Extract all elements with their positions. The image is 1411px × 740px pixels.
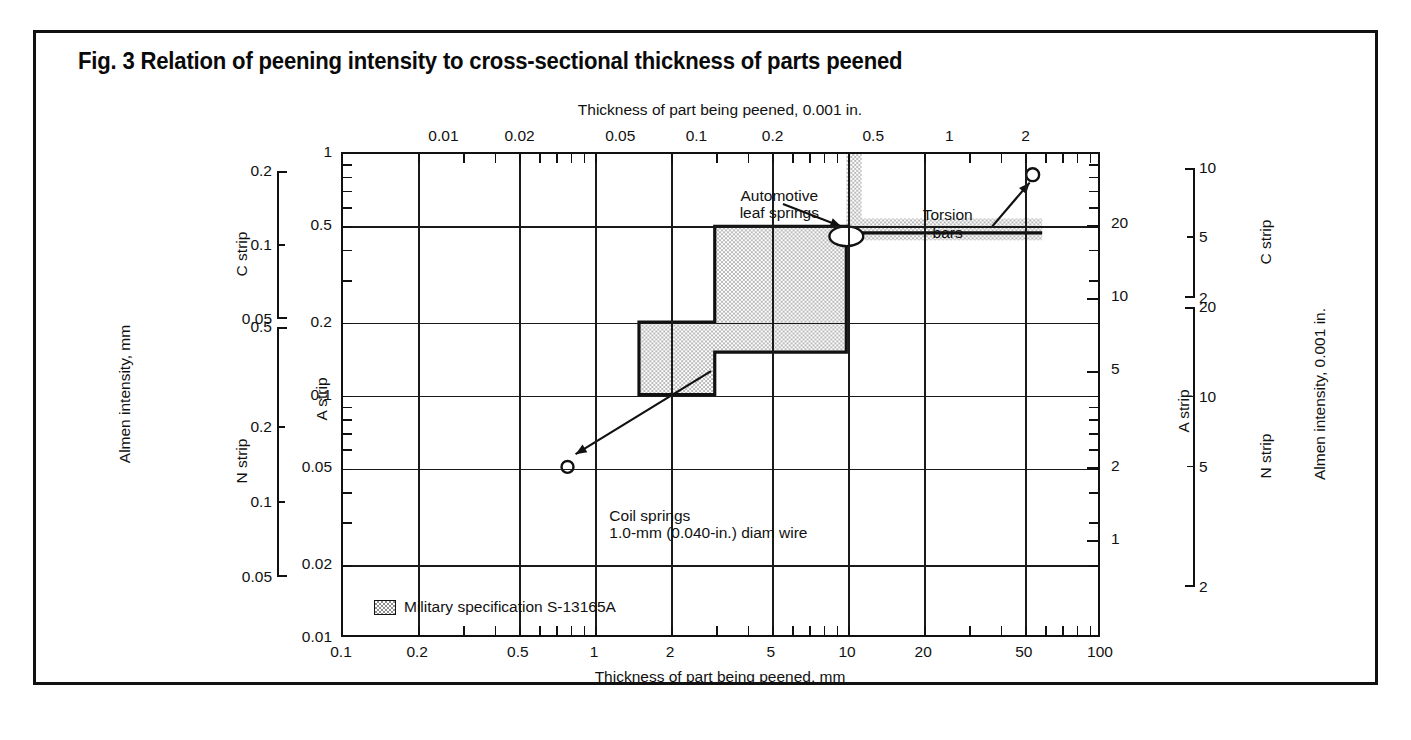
y-minor-tick bbox=[1089, 323, 1098, 325]
y-minor-tick bbox=[1089, 492, 1098, 494]
right-n-strip-name: N strip bbox=[1257, 434, 1275, 479]
x-tick-label: 10 bbox=[838, 643, 855, 661]
x-top-tick-label: 1 bbox=[945, 127, 954, 145]
leaf-springs-marker bbox=[829, 226, 863, 246]
bracket-tick bbox=[277, 244, 285, 246]
y-right-tick-label: 20 bbox=[1111, 214, 1128, 232]
x-minor-tick bbox=[556, 154, 558, 163]
x-minor-tick bbox=[716, 626, 718, 635]
x-minor-tick bbox=[571, 154, 573, 163]
x-minor-tick bbox=[1077, 626, 1079, 635]
x-minor-tick bbox=[924, 626, 926, 635]
leaf-springs-annotation: Automotiveleaf springs bbox=[740, 187, 819, 223]
x-minor-tick bbox=[539, 154, 541, 163]
bracket-tick-label: 0.1 bbox=[250, 493, 272, 511]
x-minor-tick bbox=[1025, 154, 1027, 163]
bracket-spine bbox=[1193, 307, 1195, 587]
x-minor-tick bbox=[848, 154, 850, 163]
bracket-cap bbox=[277, 171, 287, 173]
x-minor-tick bbox=[969, 154, 971, 163]
bracket-tick bbox=[277, 426, 285, 428]
torsion-bars-annotation: Torsionbars bbox=[923, 206, 973, 242]
x-minor-tick bbox=[1062, 154, 1064, 163]
top-axis-title: Thickness of part being peened, 0.001 in… bbox=[578, 101, 862, 119]
x-top-tick-label: 0.02 bbox=[504, 127, 534, 145]
x-tick-label: 20 bbox=[915, 643, 932, 661]
y-minor-tick bbox=[343, 250, 352, 252]
x-minor-tick bbox=[595, 154, 597, 163]
bracket-tick-label: 5 bbox=[1199, 228, 1208, 246]
x-minor-tick bbox=[809, 154, 811, 163]
x-minor-tick bbox=[495, 626, 497, 635]
y-minor-tick bbox=[1089, 433, 1098, 435]
x-minor-tick bbox=[519, 154, 521, 163]
figure-title: Fig. 3 Relation of peening intensity to … bbox=[78, 48, 902, 75]
x-top-tick-label: 0.5 bbox=[862, 127, 884, 145]
x-minor-tick bbox=[463, 154, 465, 163]
x-minor-tick bbox=[924, 154, 926, 163]
x-minor-tick bbox=[1001, 626, 1003, 635]
bracket-cap bbox=[277, 327, 287, 329]
x-minor-tick bbox=[792, 626, 794, 635]
bracket-tick bbox=[1187, 236, 1195, 238]
x-minor-tick bbox=[1045, 154, 1047, 163]
x-minor-tick bbox=[772, 154, 774, 163]
y-minor-tick bbox=[343, 323, 352, 325]
y-tick-label: 0.01 bbox=[302, 628, 332, 646]
x-top-tick-label: 0.1 bbox=[686, 127, 708, 145]
bracket-cap bbox=[1185, 585, 1195, 587]
left-n-strip-name: N strip bbox=[233, 439, 251, 484]
y-minor-tick bbox=[343, 522, 352, 524]
horizontal-gridline bbox=[343, 323, 1098, 324]
x-minor-tick bbox=[792, 154, 794, 163]
x-minor-tick bbox=[716, 154, 718, 163]
y-right-major-tick bbox=[1087, 298, 1098, 300]
bracket-cap bbox=[1185, 296, 1195, 298]
x-minor-tick bbox=[1062, 626, 1064, 635]
x-minor-tick bbox=[1090, 154, 1092, 163]
x-minor-tick bbox=[418, 154, 420, 163]
x-tick-label: 50 bbox=[1015, 643, 1032, 661]
x-minor-tick bbox=[969, 626, 971, 635]
y-minor-tick bbox=[1089, 419, 1098, 421]
y-minor-tick bbox=[1089, 164, 1098, 166]
x-minor-tick bbox=[539, 626, 541, 635]
x-minor-tick bbox=[671, 154, 673, 163]
left-c-strip-bracket bbox=[277, 171, 287, 319]
bracket-tick bbox=[1187, 466, 1195, 468]
bracket-tick-label: 0.1 bbox=[250, 236, 272, 254]
x-minor-tick bbox=[495, 154, 497, 163]
left-axis-title: Almen intensity, mm bbox=[116, 294, 134, 494]
left-c-strip-name: C strip bbox=[233, 232, 251, 277]
x-minor-tick bbox=[824, 154, 826, 163]
x-minor-tick bbox=[848, 626, 850, 635]
y-right-major-tick bbox=[1087, 467, 1098, 469]
bracket-tick-label: 0.2 bbox=[250, 162, 272, 180]
bracket-tick-label: 10 bbox=[1199, 159, 1216, 177]
right-c-strip-name: C strip bbox=[1257, 220, 1275, 265]
y-minor-tick bbox=[343, 226, 352, 228]
y-minor-tick bbox=[343, 407, 352, 409]
y-minor-tick bbox=[1089, 522, 1098, 524]
right-c-strip-bracket bbox=[1185, 168, 1195, 298]
y-minor-tick bbox=[343, 433, 352, 435]
plot-area bbox=[341, 152, 1100, 637]
x-top-tick-label: 0.01 bbox=[428, 127, 458, 145]
y-minor-tick bbox=[343, 565, 352, 567]
y-minor-tick bbox=[343, 164, 352, 166]
x-minor-tick bbox=[556, 626, 558, 635]
x-minor-tick bbox=[584, 626, 586, 635]
bracket-tick-label: 20 bbox=[1199, 298, 1216, 316]
x-top-tick-label: 2 bbox=[1021, 127, 1030, 145]
x-minor-tick bbox=[1090, 626, 1092, 635]
bracket-spine bbox=[1193, 168, 1195, 298]
coil-springs-annotation: Coil springs1.0-mm (0.040-in.) diam wire bbox=[609, 507, 807, 543]
left-main-axis-name: A strip bbox=[313, 377, 331, 420]
y-minor-tick bbox=[343, 419, 352, 421]
y-minor-tick bbox=[343, 207, 352, 209]
coil-springs-marker bbox=[562, 461, 574, 473]
y-tick-label: 0.02 bbox=[302, 555, 332, 573]
horizontal-gridline bbox=[343, 469, 1098, 470]
plot-inner bbox=[343, 154, 1098, 635]
y-right-tick-label: 2 bbox=[1111, 457, 1120, 475]
